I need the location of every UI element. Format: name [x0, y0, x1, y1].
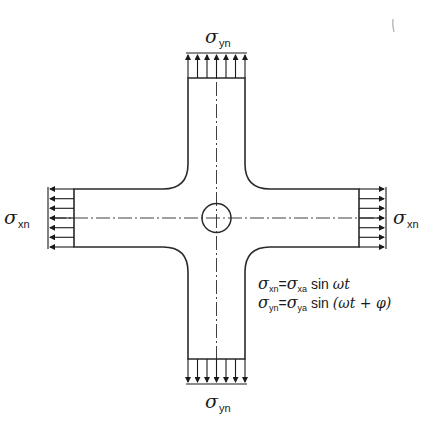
bottom-load-arrows: [186, 359, 247, 384]
rhs-subscript: xa: [298, 284, 308, 294]
left-load-arrows: [48, 187, 74, 249]
sigma-yn-top-label: σyn: [205, 27, 231, 49]
scan-artifact-mark: [393, 19, 394, 32]
lhs-subscript: yn: [269, 303, 279, 313]
equation-sigma-yn: σyn=σya sin (ωt + φ): [258, 294, 391, 317]
subscript: yn: [219, 402, 231, 414]
equals-sign: =: [278, 295, 286, 311]
sigma-symbol: σ: [393, 206, 406, 228]
sigma-symbol: σ: [205, 25, 218, 47]
sigma-xn-left-label: σxn: [4, 208, 30, 230]
function-argument: (ωt + φ): [333, 295, 391, 311]
subscript: yn: [219, 37, 231, 49]
function-name: sin: [307, 295, 333, 311]
function-name: sin: [307, 276, 333, 292]
lhs-subscript: xn: [269, 284, 279, 294]
equals-sign: =: [278, 276, 286, 292]
lhs-symbol: σ: [258, 293, 269, 312]
top-load-arrows: [186, 53, 247, 78]
rhs-symbol: σ: [287, 293, 298, 312]
function-argument: ωt: [333, 276, 350, 292]
rhs-symbol: σ: [287, 274, 298, 293]
subscript: xn: [18, 218, 30, 230]
sigma-symbol: σ: [4, 206, 17, 228]
sigma-yn-bottom-label: σyn: [205, 392, 231, 414]
cruciform-specimen-diagram: [0, 0, 434, 435]
lhs-symbol: σ: [258, 274, 269, 293]
subscript: xn: [407, 218, 419, 230]
sigma-symbol: σ: [205, 390, 218, 412]
right-load-arrows: [359, 187, 386, 249]
rhs-subscript: ya: [298, 303, 308, 313]
sigma-xn-right-label: σxn: [393, 208, 419, 230]
